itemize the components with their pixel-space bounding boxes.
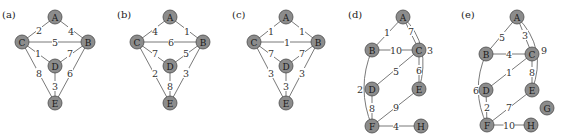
edge-weight-C-B: 1 xyxy=(284,37,290,48)
edge-weight-C-E: 6 xyxy=(416,65,422,76)
node-D: D xyxy=(365,82,379,96)
node-A: A xyxy=(48,10,62,24)
edge-weight-F-H: 10 xyxy=(503,120,515,131)
edge-weight-C-E: 3 xyxy=(268,68,274,79)
edge-weight-D-F: 2 xyxy=(484,102,490,113)
edge-weight-A-E: 9 xyxy=(541,45,547,56)
edge-weight-F-H: 4 xyxy=(393,121,399,132)
node-label: B xyxy=(200,38,207,48)
graph-panel-b: (b)41675238ACBDE xyxy=(117,9,210,110)
edge-weight-C-D: 7 xyxy=(268,48,274,59)
edge-weight-E-F: 7 xyxy=(506,102,512,113)
edge-weight-A-C: 4 xyxy=(152,26,158,37)
graph-panel-e: (e)53941862710ABCDEGFH xyxy=(461,9,554,132)
node-C: C xyxy=(412,43,426,57)
edge-weight-C-E: 8 xyxy=(36,68,42,79)
node-A: A xyxy=(396,10,410,24)
edge-weight-A-C: 3 xyxy=(522,30,528,41)
edge-weight-A-B: 1 xyxy=(384,27,390,38)
node-D: D xyxy=(48,59,62,73)
edge-weight-C-D: 1 xyxy=(506,67,512,78)
edge-weight-D-E: 3 xyxy=(52,81,58,92)
node-C: C xyxy=(15,35,29,49)
node-label: C xyxy=(529,50,536,60)
edge-weight-C-D: 5 xyxy=(393,66,399,77)
node-label: D xyxy=(166,62,173,72)
panel-label: (d) xyxy=(348,9,362,20)
node-B: B xyxy=(81,35,95,49)
edge-weight-A-B: 4 xyxy=(68,26,74,37)
node-label: C xyxy=(416,46,423,56)
edge-weight-A-B: 5 xyxy=(499,32,505,43)
node-C: C xyxy=(525,47,539,61)
node-D: D xyxy=(163,59,177,73)
node-B: B xyxy=(365,43,379,57)
edge-weight-C-E: 2 xyxy=(152,68,158,79)
node-H: H xyxy=(414,119,428,133)
edge-weight-A-C: 1 xyxy=(268,26,274,37)
edge-weight-B-C: 4 xyxy=(506,49,512,60)
node-label: A xyxy=(51,13,59,23)
node-label: B xyxy=(483,50,490,60)
node-label: F xyxy=(369,122,375,132)
node-label: C xyxy=(134,38,141,48)
node-label: E xyxy=(416,85,423,95)
panel-label: (a) xyxy=(2,9,16,20)
edge-weight-B-E: 3 xyxy=(183,68,189,79)
node-label: D xyxy=(482,86,489,96)
edge-weight-A-E: 3 xyxy=(427,45,433,56)
edge-weight-B-D: 7 xyxy=(299,48,305,59)
node-E: E xyxy=(163,96,177,110)
graph-canvas: (a)24517863ACBDE(b)41675238ACBDE(c)11177… xyxy=(0,0,569,138)
panel-label: (c) xyxy=(232,9,246,20)
graph-panel-a: (a)24517863ACBDE xyxy=(2,9,95,110)
edge-weight-B-F: 6 xyxy=(473,85,479,96)
node-label: D xyxy=(51,62,58,72)
node-B: B xyxy=(311,35,325,49)
node-label: G xyxy=(543,104,550,114)
node-A: A xyxy=(510,10,524,24)
node-C: C xyxy=(247,35,261,49)
node-A: A xyxy=(163,10,177,24)
edge-weight-D-F: 8 xyxy=(369,103,375,114)
panel-label: (b) xyxy=(117,9,131,20)
edge-weight-B-D: 5 xyxy=(183,48,189,59)
node-label: A xyxy=(166,13,174,23)
node-B: B xyxy=(479,47,493,61)
edge-weight-C-D: 1 xyxy=(35,48,41,59)
edge-weight-B-C: 10 xyxy=(390,45,402,56)
edge-weight-A-B: 1 xyxy=(299,26,305,37)
node-label: D xyxy=(282,62,289,72)
node-label: A xyxy=(399,13,407,23)
node-E: E xyxy=(412,82,426,96)
edge-weight-B-E: 6 xyxy=(67,68,73,79)
node-E: E xyxy=(279,96,293,110)
edge-weight-E-F: 9 xyxy=(393,102,399,113)
edge-weight-A-C: 7 xyxy=(408,26,414,37)
node-label: E xyxy=(52,99,59,109)
graph-figure: (a)24517863ACBDE(b)41675238ACBDE(c)11177… xyxy=(0,0,569,138)
node-F: F xyxy=(480,118,494,132)
node-label: E xyxy=(167,99,174,109)
node-label: A xyxy=(282,13,290,23)
edge-weight-A-C: 2 xyxy=(36,25,42,36)
graph-panel-d: (d)17310562894ABCDEFH xyxy=(348,9,433,133)
edge-weight-D-E: 8 xyxy=(167,81,173,92)
node-G: G xyxy=(540,101,554,115)
graph-panel-c: (c)11177333ACBDE xyxy=(232,9,325,110)
edge-weight-B-F: 2 xyxy=(357,84,363,95)
edge-weight-C-D: 7 xyxy=(152,48,158,59)
node-label: B xyxy=(85,38,92,48)
node-label: B xyxy=(315,38,322,48)
node-E: E xyxy=(525,83,539,97)
node-A: A xyxy=(279,10,293,24)
edge-weight-C-B: 5 xyxy=(52,37,58,48)
edge-weight-B-E: 3 xyxy=(299,68,305,79)
panel-label: (e) xyxy=(461,9,475,20)
node-label: D xyxy=(368,85,375,95)
edge-weight-B-D: 7 xyxy=(67,48,73,59)
node-D: D xyxy=(279,59,293,73)
node-label: F xyxy=(484,121,490,131)
edge-weight-C-E: 8 xyxy=(529,67,535,78)
edge-weight-A-B: 1 xyxy=(184,26,190,37)
